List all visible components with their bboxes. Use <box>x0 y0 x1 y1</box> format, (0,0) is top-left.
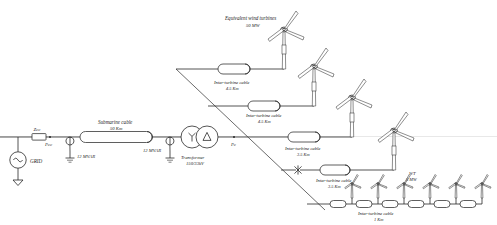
equivalent-wind-turbine-3 <box>336 79 372 137</box>
zcc-label: Zcc <box>34 127 42 132</box>
equivalent-wind-turbine-4 <box>378 112 414 170</box>
pc-node-dot <box>233 136 235 138</box>
feeder-3 <box>288 132 352 142</box>
wt-string-turbine-5 <box>449 175 465 199</box>
wind-farm-single-line-diagram: GRID Zcc Pcc 12 MVAR Submarine cable 50 … <box>0 0 497 225</box>
ground-symbol <box>13 180 23 186</box>
feeder-4 <box>281 165 394 175</box>
grid-source <box>10 137 26 186</box>
transformer-symbol <box>181 126 218 148</box>
wt-string-feeder <box>307 198 482 208</box>
pcc-node-dot <box>49 136 51 138</box>
equivalent-turbines-name: Equivalent wind turbines <box>224 15 276 21</box>
wt-string-turbine-2 <box>371 175 387 199</box>
submarine-cable-symbol <box>80 132 153 143</box>
shunt-reactor-2 <box>166 137 175 162</box>
feeder-2 <box>208 101 314 111</box>
equivalent-wind-turbine-2 <box>298 48 334 106</box>
feeder-3-cable-name: Inter-turbine cable <box>284 146 320 151</box>
transformer-ratio: 150/33kV <box>186 161 205 166</box>
reactor-1-label: 12 MVAR <box>77 154 95 159</box>
reactor-2-label: 12 MVAR <box>143 148 161 153</box>
grid-label: GRID <box>30 158 42 164</box>
feeder-1 <box>176 64 284 74</box>
pcc-label: Pcc <box>44 142 53 147</box>
wt-rating-label: WT <box>409 171 416 176</box>
submarine-cable-length: 50 Km <box>110 126 123 131</box>
feeder-4-cable-name: Inter-turbine cable <box>315 178 351 183</box>
wt-string-turbine-4 <box>423 175 439 199</box>
string-cable-name: Inter-turbine cable <box>357 211 393 216</box>
feeder-3-cable-length: 3.5 Km <box>297 152 310 157</box>
string-cable-length: 1 Km <box>374 217 383 222</box>
grid-impedance-zcc <box>32 134 46 141</box>
transformer-name: Transformer <box>181 155 205 160</box>
pc-label: Pc <box>230 142 237 147</box>
submarine-cable-name: Submarine cable <box>98 119 133 125</box>
feeder-2-cable-length: 4.5 Km <box>258 119 271 124</box>
feeder-4-cable-length: 3.5 Km <box>328 184 341 189</box>
feeder-1-cable-length: 4.5 Km <box>226 86 239 91</box>
shunt-reactor-1 <box>66 137 75 162</box>
feeder-2-cable-name: Inter-turbine cable <box>245 113 281 118</box>
schematic-canvas: GRID Zcc Pcc 12 MVAR Submarine cable 50 … <box>0 0 497 225</box>
equivalent-turbines-rating: 50 MW <box>246 23 261 28</box>
wt-string-turbine-6 <box>475 175 491 199</box>
feeder-1-cable-name: Inter-turbine cable <box>213 80 249 85</box>
wt-rating-value: 5 MW <box>406 177 417 182</box>
